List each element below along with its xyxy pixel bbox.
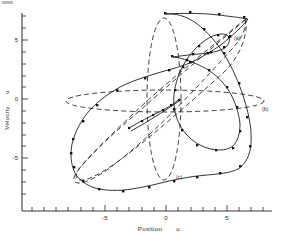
y-tick-label-0: 0	[15, 96, 19, 102]
curve-a-inner-markers	[171, 34, 241, 151]
inner-strand-secondary	[131, 101, 179, 131]
curve-a-outer-orbit	[71, 13, 251, 190]
axis-group: 5 0 -5 -5 0 5 Position u Velocity u̇	[3, 13, 272, 232]
x-major-ticks	[105, 205, 227, 211]
y-major-ticks	[22, 40, 28, 158]
y-tick-label-5: 5	[15, 37, 19, 43]
curve-a-outer-markers	[70, 11, 251, 192]
x-axis-title: Position	[138, 225, 163, 232]
y-tick-label-minus5: -5	[13, 155, 19, 161]
x-axis-symbol: u	[176, 225, 180, 232]
curve-label-b: (b)	[262, 106, 269, 112]
curve-label-c: (c)	[176, 174, 182, 180]
phase-plane-figure: 5 0 -5 -5 0 5 Position u Velocity u̇	[0, 0, 283, 233]
scan-artifact	[2, 1, 13, 4]
curve-label-a: (a)	[234, 35, 241, 41]
curve-c-narrow-ellipse	[147, 18, 181, 180]
x-tick-label-5: 5	[225, 215, 229, 221]
x-minor-ticks	[32, 207, 263, 211]
x-tick-label-minus5: -5	[102, 215, 108, 221]
diagonal-orbit-lower	[74, 20, 246, 183]
y-axis-symbol: u̇	[3, 90, 10, 94]
x-tick-label-0: 0	[164, 215, 168, 221]
y-axis-title: Velocity	[3, 106, 10, 130]
y-minor-ticks	[22, 16, 26, 194]
